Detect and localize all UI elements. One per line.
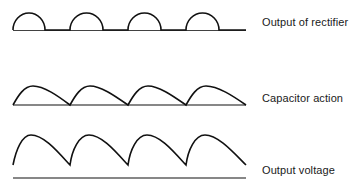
capacitor-action-label: Capacitor action xyxy=(262,92,343,104)
rectifier-output-waveform xyxy=(13,13,246,31)
output-voltage-waveform xyxy=(13,135,246,178)
rectifier-output-label: Output of rectifier xyxy=(262,16,348,28)
output-voltage-label: Output voltage xyxy=(262,164,335,176)
capacitor-action-waveform xyxy=(13,86,246,105)
